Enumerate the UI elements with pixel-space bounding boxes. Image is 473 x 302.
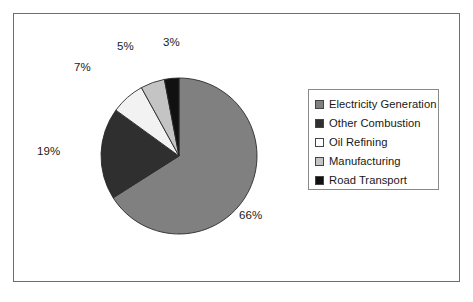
- legend-item-electricity-generation[interactable]: Electricity Generation: [315, 95, 438, 113]
- legend-item-oil-refining[interactable]: Oil Refining: [315, 133, 438, 151]
- pie-label-other-combustion: 19%: [37, 145, 60, 157]
- legend-item-manufacturing[interactable]: Manufacturing: [315, 152, 438, 170]
- pie-label-manufacturing: 5%: [117, 40, 134, 52]
- pie-label-oil-refining: 7%: [74, 61, 91, 73]
- legend-swatch-oil-refining: [315, 138, 324, 147]
- legend-swatch-other-combustion: [315, 119, 324, 128]
- chart-frame: 66% 19% 7% 5% 3% Electricity Generation …: [13, 13, 460, 282]
- legend-swatch-manufacturing: [315, 157, 324, 166]
- legend-label-other-combustion: Other Combustion: [329, 117, 421, 129]
- legend-label-road-transport: Road Transport: [329, 174, 407, 186]
- legend-label-manufacturing: Manufacturing: [329, 155, 401, 167]
- pie-label-electricity-generation: 66%: [239, 209, 262, 221]
- legend-item-other-combustion[interactable]: Other Combustion: [315, 114, 438, 132]
- legend-item-road-transport[interactable]: Road Transport: [315, 171, 438, 189]
- pie-label-road-transport: 3%: [163, 36, 180, 48]
- legend-swatch-road-transport: [315, 176, 324, 185]
- legend-swatch-electricity-generation: [315, 100, 324, 109]
- pie-slices-group: [101, 78, 257, 234]
- chart-legend: Electricity Generation Other Combustion …: [308, 89, 439, 190]
- legend-label-oil-refining: Oil Refining: [329, 136, 387, 148]
- legend-label-electricity-generation: Electricity Generation: [329, 98, 436, 110]
